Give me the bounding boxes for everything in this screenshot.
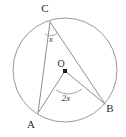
vertex-label-C: C [41,2,48,14]
circle-diagram-canvas: C B A O x 2x [0,0,126,137]
segment-OA [38,71,65,113]
central-angle-label: 2x [62,93,71,103]
center-point-dot [63,69,67,73]
vertex-label-B: B [106,102,113,114]
center-label-O: O [57,58,64,69]
vertex-label-A: A [27,118,35,130]
inscribed-angle-label: x [48,34,53,44]
segment-OB [65,71,105,104]
geometry-diagram: C B A O x 2x [0,0,126,137]
